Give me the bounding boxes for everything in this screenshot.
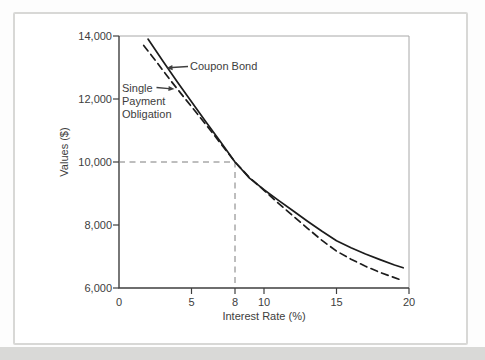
- x-tick-15: 15: [322, 296, 352, 308]
- y-axis-title: Values ($): [58, 127, 70, 176]
- bottom-strip: [0, 347, 485, 360]
- annotation-single-payment-obligation: Single Payment Obligation: [122, 82, 172, 121]
- page: 14,000 12,000 10,000 8,000 6,000 0 5 8 1…: [0, 0, 485, 360]
- reference-dashed-lines: [119, 162, 235, 288]
- x-tick-0: 0: [104, 296, 134, 308]
- y-tick-12000: 12,000: [56, 93, 112, 105]
- annotation-single-line-3: Obligation: [122, 108, 172, 121]
- annotation-single-line-1: Single: [122, 82, 172, 95]
- x-tick-10: 10: [249, 296, 279, 308]
- y-tick-8000: 8,000: [56, 219, 112, 231]
- x-axis-title: Interest Rate (%): [222, 310, 305, 322]
- y-tick-14000: 14,000: [56, 30, 112, 42]
- x-tick-20: 20: [394, 296, 424, 308]
- x-tick-8: 8: [220, 296, 250, 308]
- y-tick-6000: 6,000: [56, 282, 112, 294]
- coupon-bond-arrow-line: [172, 67, 188, 68]
- annotation-coupon-bond: Coupon Bond: [190, 60, 257, 73]
- curve-single-payment-obligation: [144, 45, 399, 279]
- annotation-single-line-2: Payment: [122, 95, 172, 108]
- x-tick-5: 5: [177, 296, 207, 308]
- curve-coupon-bond: [148, 39, 403, 268]
